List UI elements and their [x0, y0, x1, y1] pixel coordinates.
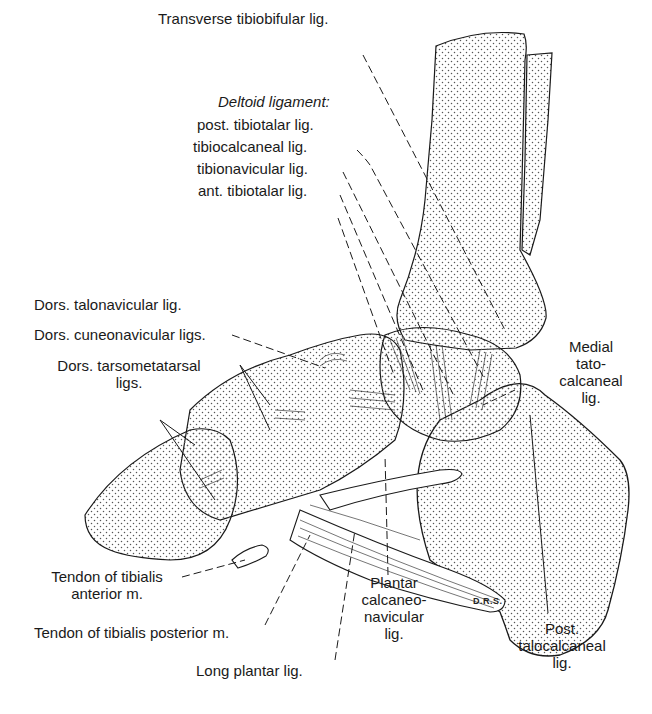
metatarsal-bones — [85, 429, 238, 560]
label-line: calcaneo- — [356, 591, 432, 608]
label-dors-talonavicular-lig: Dors. talonavicular lig. — [34, 296, 182, 313]
label-tibionavicular-lig: tibionavicular lig. — [197, 160, 308, 177]
label-deltoid-ligament-heading: Deltoid ligament: — [218, 93, 330, 110]
label-dors-cuneonavicular-ligs: Dors. cuneonavicular ligs. — [34, 326, 206, 343]
label-post-talocalcaneal-lig: Post. talocalcaneal lig. — [508, 620, 616, 671]
label-line: lig. — [356, 625, 432, 642]
label-line: ligs. — [34, 374, 224, 391]
label-line: Post. — [508, 620, 616, 637]
label-tibiocalcaneal-lig: tibiocalcaneal lig. — [193, 138, 307, 155]
label-line: Medial — [553, 338, 629, 355]
label-line: talocalcaneal — [508, 637, 616, 654]
label-line: anterior m. — [32, 585, 182, 602]
label-line: Tendon of tibialis — [32, 568, 182, 585]
label-line: lig. — [553, 389, 629, 406]
label-line: Dors. tarsometatarsal — [34, 357, 224, 374]
label-plantar-calcaneonavicular-lig: Plantar calcaneo- navicular lig. — [356, 574, 432, 642]
label-line: Plantar — [356, 574, 432, 591]
label-line: navicular — [356, 608, 432, 625]
label-line: lig. — [508, 654, 616, 671]
label-line: calcaneal — [553, 372, 629, 389]
fibula-bone — [522, 53, 552, 255]
label-tendon-tibialis-anterior: Tendon of tibialis anterior m. — [32, 568, 182, 602]
label-tendon-tibialis-posterior: Tendon of tibialis posterior m. — [34, 624, 229, 641]
label-line: tato- — [553, 355, 629, 372]
label-dors-tarsometatarsal-ligs: Dors. tarsometatarsal ligs. — [34, 357, 224, 391]
label-transverse-tibiofibular-lig: Transverse tibiobifular lig. — [158, 10, 328, 27]
label-post-tibiotalar-lig: post. tibiotalar lig. — [197, 116, 314, 133]
artist-signature: D.R.S. — [473, 596, 503, 606]
tibialis-anterior-tendon — [232, 545, 268, 568]
label-ant-tibiotalar-lig: ant. tibiotalar lig. — [198, 182, 307, 199]
label-medial-talocalcaneal-lig: Medial tato- calcaneal lig. — [553, 338, 629, 406]
label-long-plantar-lig: Long plantar lig. — [196, 662, 303, 679]
